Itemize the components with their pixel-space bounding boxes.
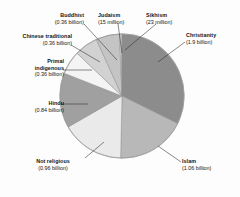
label-islam-value: (1.06 billion) (182, 165, 238, 172)
label-primal-indigenous-value: (0.36 billion) (2, 71, 64, 78)
label-sikhism-name: Sikhism (146, 12, 192, 19)
label-hindu-value: (0.84 billion) (2, 107, 64, 114)
label-islam-name: Islam (182, 158, 238, 165)
label-primal-indigenous-name-line2: indigenous (2, 65, 64, 72)
label-sikhism: Sikhism (23 million) (146, 12, 192, 25)
label-primal-indigenous: Primal indigenous (0.36 billion) (2, 58, 64, 78)
pie-svg (58, 32, 186, 160)
label-judaism-value: (15 million) (98, 19, 142, 26)
pie-chart-graphic (58, 32, 186, 160)
label-hindu: Hindu (0.84 billion) (2, 100, 64, 113)
label-buddhist: Buddhist (0.36 billion) (24, 12, 84, 25)
label-hindu-name: Hindu (2, 100, 64, 107)
label-buddhist-value: (0.36 billion) (24, 19, 84, 26)
label-chinese-traditional-name: Chinese traditional (2, 33, 72, 40)
label-chinese-traditional-value: (0.36 billion) (2, 40, 72, 47)
label-not-religious-value: (0.96 billion) (18, 165, 88, 172)
label-not-religious: Not religious (0.96 billion) (18, 158, 88, 171)
label-sikhism-value: (23 million) (146, 19, 192, 26)
label-christianity-name: Christianity (186, 32, 240, 39)
label-judaism-name: Judaism (98, 12, 142, 19)
label-christianity-value: (1.9 billion) (186, 39, 240, 46)
label-not-religious-name: Not religious (18, 158, 88, 165)
label-buddhist-name: Buddhist (24, 12, 84, 19)
label-chinese-traditional: Chinese traditional (0.36 billion) (2, 33, 72, 46)
label-christianity: Christianity (1.9 billion) (186, 32, 240, 45)
label-islam: Islam (1.06 billion) (182, 158, 238, 171)
label-primal-indigenous-name-line1: Primal (2, 58, 64, 65)
label-judaism: Judaism (15 million) (98, 12, 142, 25)
pie-chart-figure: Buddhist (0.36 billion) Judaism (15 mill… (0, 0, 240, 197)
